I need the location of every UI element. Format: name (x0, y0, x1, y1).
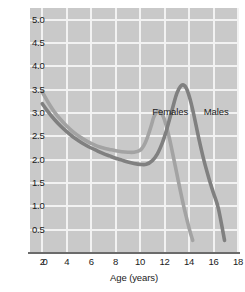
growth-rate-chart: Height gain (inches/year) 00.51.01.52.02… (0, 0, 245, 292)
x-tick-label-16: 16 (204, 256, 224, 267)
x-axis-line (28, 252, 240, 254)
series-label-males: Males (204, 106, 229, 117)
x-tick-label-4: 4 (57, 256, 77, 267)
y-tick-label-0.5: 0.5 (32, 224, 58, 235)
y-tick-label-2.0: 2.0 (32, 154, 58, 165)
y-tick-label-4.0: 4.0 (32, 60, 58, 71)
x-tick-label-6: 6 (81, 256, 101, 267)
series-label-females: Females (152, 106, 188, 117)
x-tick-label-10: 10 (130, 256, 150, 267)
x-axis-title: Age (years) (30, 272, 238, 283)
x-tick-label-2: 2 (32, 256, 52, 267)
series-curves (30, 8, 238, 253)
y-tick-label-3.0: 3.0 (32, 107, 58, 118)
x-tick-label-8: 8 (106, 256, 126, 267)
y-tick-label-1.0: 1.0 (32, 200, 58, 211)
y-tick-label-4.5: 4.5 (32, 37, 58, 48)
plot-area: 00.51.01.52.02.53.03.54.04.55.0 FemalesM… (30, 8, 238, 253)
y-tick-label-5.0: 5.0 (32, 14, 58, 25)
x-tick-label-14: 14 (179, 256, 199, 267)
y-tick-label-2.5: 2.5 (32, 130, 58, 141)
x-tick-label-18: 18 (228, 256, 245, 267)
y-tick-label-1.5: 1.5 (32, 177, 58, 188)
curve-males (42, 85, 224, 241)
x-tick-label-12: 12 (155, 256, 175, 267)
y-tick-label-3.5: 3.5 (32, 84, 58, 95)
